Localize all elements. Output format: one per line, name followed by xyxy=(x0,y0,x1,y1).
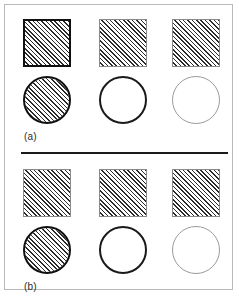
panel-divider xyxy=(21,152,228,154)
panel-b-circle-cell-2 xyxy=(172,226,220,274)
panel-a-circle-cell-2 xyxy=(172,76,220,124)
panel-b-square-cell-0 xyxy=(23,169,71,217)
panel-b-circle-row xyxy=(5,226,232,276)
panel-b-square-row xyxy=(5,169,232,219)
panel-a: (a) xyxy=(5,5,232,151)
square-hatched-heavy-edge xyxy=(23,19,71,67)
panel-a-square-cell-1 xyxy=(99,19,147,67)
panel-b: (b) xyxy=(5,155,232,296)
panel-b-caption: (b) xyxy=(24,281,37,293)
panel-b-square-cell-2 xyxy=(172,169,220,217)
figure-frame: (a) xyxy=(4,4,233,290)
panel-a-circle-cell-1 xyxy=(99,76,147,124)
panel-a-square-cell-0 xyxy=(23,19,71,67)
panel-a-caption: (a) xyxy=(24,131,37,143)
circle-hatched-heavy-edge xyxy=(23,76,71,124)
square-hatched-light-edge xyxy=(172,169,220,217)
panel-b-circle-cell-0 xyxy=(23,226,71,274)
square-hatched-light-edge xyxy=(172,19,220,67)
circle-plain-heavy-edge xyxy=(99,76,147,124)
panel-a-circle-row xyxy=(5,76,232,126)
figure-root: (a) xyxy=(0,0,239,296)
panel-b-square-cell-1 xyxy=(99,169,147,217)
square-hatched-light-edge xyxy=(99,19,147,67)
square-hatched-light-edge xyxy=(23,169,71,217)
panel-b-circle-cell-1 xyxy=(99,226,147,274)
circle-hatched-heavy-edge xyxy=(23,226,71,274)
circle-plain-faint-edge xyxy=(172,226,220,274)
panel-a-circle-cell-0 xyxy=(23,76,71,124)
circle-plain-heavy-edge xyxy=(99,226,147,274)
circle-plain-faint-edge xyxy=(172,76,220,124)
panel-a-square-cell-2 xyxy=(172,19,220,67)
square-hatched-light-edge xyxy=(99,169,147,217)
panel-a-square-row xyxy=(5,19,232,69)
